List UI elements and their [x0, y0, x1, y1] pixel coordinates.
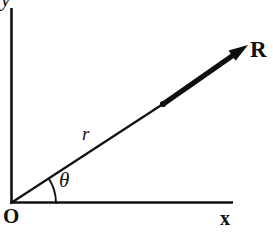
origin-label: O [3, 206, 19, 227]
diagram-canvas [0, 0, 273, 233]
vector-magnitude-label: r [82, 124, 89, 143]
vector-thin-segment [11, 104, 163, 203]
x-axis-label: x [220, 208, 230, 228]
angle-arc [49, 179, 56, 204]
angle-theta-label: θ [59, 170, 69, 191]
vector-label-R: R [250, 38, 267, 61]
vector-diagram-figure: y O x r θ R [0, 0, 273, 233]
vector-thick-segment [162, 52, 238, 105]
y-axis-label: y [1, 0, 10, 10]
